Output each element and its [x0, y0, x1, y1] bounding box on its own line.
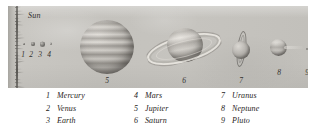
sun-ray — [15, 10, 23, 12]
planet-jupiter — [80, 20, 134, 74]
legend-item-saturn: 6 Saturn — [134, 116, 168, 129]
sun-ray — [15, 18, 20, 19]
planet-jupiter-number: 5 — [98, 76, 116, 85]
legend-label: Pluto — [232, 116, 250, 125]
legend-index: 4 — [134, 91, 145, 100]
sun-ray — [15, 21, 22, 22]
inner-planet-numbers: 1 2 3 4 — [21, 49, 65, 60]
legend-column-2: 4 Mars 5 Jupiter 6 Saturn — [134, 91, 168, 129]
legend-index: 7 — [221, 91, 232, 100]
inner-number-2: 2 — [27, 49, 35, 60]
inner-number-4: 4 — [45, 49, 53, 60]
planet-mars-dot — [50, 43, 52, 45]
legend-item-jupiter: 5 Jupiter — [134, 104, 168, 117]
planet-uranus-number: 7 — [232, 76, 250, 85]
planet-pluto — [306, 48, 308, 50]
sun-ray — [15, 45, 22, 46]
sun-ray — [15, 72, 24, 73]
legend-item-venus: 2 Venus — [46, 104, 85, 117]
legend-item-uranus: 7 Uranus — [221, 91, 259, 104]
planet-mercury-dot — [23, 43, 25, 45]
uranus-globe — [232, 41, 250, 59]
legend: 1 Mercury 2 Venus 3 Earth 4 Mars 5 Jupit… — [8, 90, 308, 132]
legend-column-1: 1 Mercury 2 Venus 3 Earth — [46, 91, 85, 129]
legend-label: Mercury — [57, 91, 85, 100]
planet-neptune-number: 8 — [270, 68, 288, 77]
sun-ray — [15, 28, 19, 29]
legend-label: Neptune — [232, 104, 259, 113]
legend-item-mars: 4 Mars — [134, 91, 168, 104]
inner-planets-row — [22, 39, 62, 49]
legend-index: 1 — [46, 91, 57, 100]
inner-number-1: 1 — [19, 49, 27, 60]
legend-item-mercury: 1 Mercury — [46, 91, 85, 104]
legend-index: 6 — [134, 116, 145, 125]
legend-item-pluto: 9 Pluto — [221, 116, 259, 129]
legend-label: Mars — [145, 91, 162, 100]
legend-label: Venus — [57, 104, 76, 113]
planet-saturn — [146, 18, 222, 76]
planet-neptune — [270, 36, 302, 60]
legend-item-neptune: 8 Neptune — [221, 104, 259, 117]
sun-ray — [15, 60, 25, 62]
solar-system-figure: Sun 1 2 3 4 5 6 7 — [0, 0, 319, 132]
illustration-plate: Sun 1 2 3 4 5 6 7 — [8, 6, 308, 88]
legend-index: 2 — [46, 104, 57, 113]
sun-ray — [15, 68, 22, 69]
sun-ray — [15, 34, 23, 36]
legend-label: Saturn — [145, 116, 167, 125]
legend-column-3: 7 Uranus 8 Neptune 9 Pluto — [221, 91, 259, 129]
sun-ray — [15, 79, 21, 80]
planet-uranus — [230, 32, 252, 66]
inner-number-3: 3 — [36, 49, 44, 60]
sun-label: Sun — [28, 11, 41, 20]
legend-item-earth: 3 Earth — [46, 116, 85, 129]
legend-index: 8 — [221, 104, 232, 113]
legend-label: Uranus — [232, 91, 257, 100]
legend-label: Jupiter — [145, 104, 168, 113]
legend-index: 9 — [221, 116, 232, 125]
neptune-streak — [284, 46, 304, 49]
planet-pluto-number: 9 — [298, 68, 308, 77]
sun-ray — [15, 75, 19, 76]
planet-earth-dot — [40, 42, 45, 47]
legend-index: 5 — [134, 104, 145, 113]
legend-label: Earth — [57, 116, 76, 125]
planet-venus-dot — [31, 42, 35, 46]
legend-index: 3 — [46, 116, 57, 125]
planet-saturn-number: 6 — [175, 76, 193, 85]
